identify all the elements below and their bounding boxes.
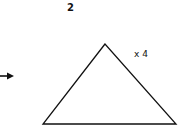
triangle-shape [43,44,176,124]
right-arrow-icon [0,73,14,80]
diagram-canvas [0,0,178,140]
